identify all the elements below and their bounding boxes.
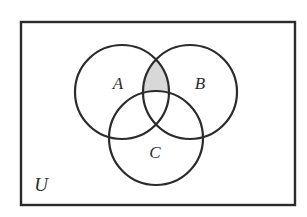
set-label-b: B bbox=[195, 74, 206, 93]
set-label-c: C bbox=[149, 143, 161, 162]
venn-diagram: A B C U bbox=[0, 0, 307, 217]
set-label-a: A bbox=[112, 74, 124, 93]
universal-set-label: U bbox=[34, 174, 49, 195]
